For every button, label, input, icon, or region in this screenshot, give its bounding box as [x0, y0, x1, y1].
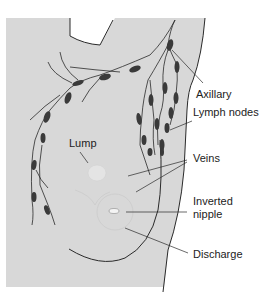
label-nipple: nipple — [193, 208, 222, 221]
label-inverted: Inverted — [193, 195, 233, 208]
inverted-nipple — [109, 209, 119, 214]
label-axillary: Axillary — [196, 88, 231, 101]
label-veins: Veins — [193, 152, 220, 165]
label-discharge: Discharge — [193, 248, 243, 261]
lump — [88, 165, 106, 181]
torso-background — [6, 18, 205, 287]
label-lump: Lump — [69, 137, 97, 150]
label-lymph-nodes: Lymph nodes — [193, 106, 259, 119]
